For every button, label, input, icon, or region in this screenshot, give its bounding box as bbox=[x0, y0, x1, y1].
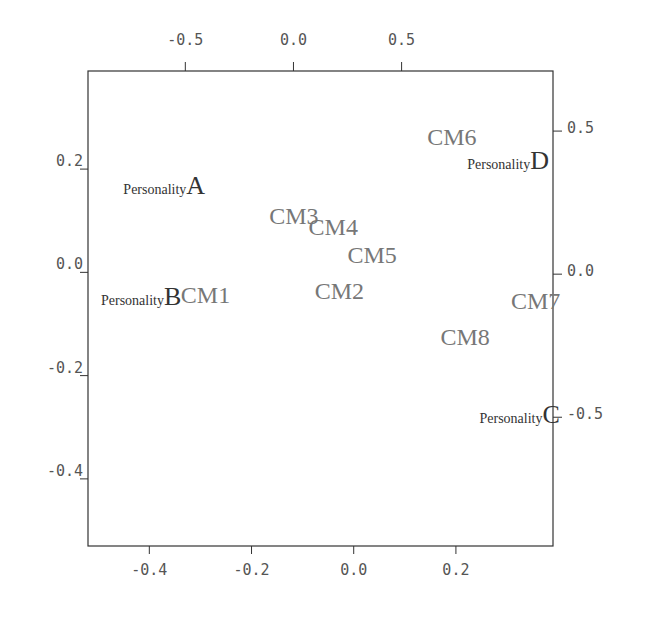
vector-label-c: PersonalityC bbox=[479, 400, 559, 429]
right-y-tick-label: -0.5 bbox=[567, 405, 603, 423]
plot-frame bbox=[88, 71, 553, 546]
point-label-cm4: CM4 bbox=[309, 214, 358, 240]
point-label-cm5: CM5 bbox=[347, 242, 396, 268]
x-tick-label: 0.0 bbox=[340, 561, 367, 579]
point-label-cm7: CM7 bbox=[511, 288, 560, 314]
right-y-tick-label: 0.0 bbox=[567, 262, 594, 280]
y-tick-label: 0.0 bbox=[56, 255, 83, 273]
vector-label-a: PersonalityA bbox=[123, 171, 205, 200]
point-label-cm8: CM8 bbox=[440, 324, 489, 350]
top-x-tick-label: -0.5 bbox=[167, 31, 203, 49]
right-y-tick-label: 0.5 bbox=[567, 119, 594, 137]
y-tick-label: -0.4 bbox=[47, 462, 83, 480]
x-tick-label: -0.4 bbox=[131, 561, 167, 579]
y-tick-label: -0.2 bbox=[47, 359, 83, 377]
point-label-cm2: CM2 bbox=[315, 278, 364, 304]
point-label-cm6: CM6 bbox=[427, 124, 476, 150]
top-x-tick-label: 0.0 bbox=[280, 31, 307, 49]
biplot-chart: -0.4-0.20.00.20.20.0-0.2-0.4-0.50.00.50.… bbox=[0, 0, 650, 617]
x-tick-label: -0.2 bbox=[233, 561, 269, 579]
top-x-tick-label: 0.5 bbox=[388, 31, 415, 49]
x-tick-label: 0.2 bbox=[442, 561, 469, 579]
vector-label-d: PersonalityD bbox=[467, 146, 549, 175]
y-tick-label: 0.2 bbox=[56, 152, 83, 170]
vector-label-b: PersonalityB bbox=[101, 282, 181, 311]
point-label-cm1: CM1 bbox=[181, 282, 230, 308]
